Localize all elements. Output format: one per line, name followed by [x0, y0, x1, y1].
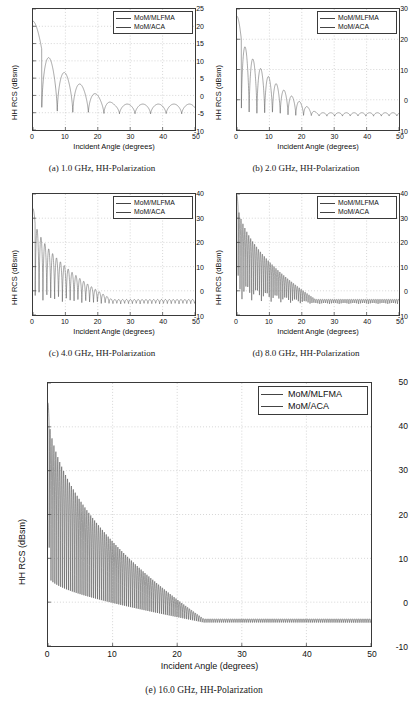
- ytick: 0: [379, 288, 408, 295]
- panel-e-caption: (e) 16.0 GHz, HH-Polarization: [0, 685, 408, 695]
- xtick: 0: [226, 133, 246, 140]
- legend-entry: MoM/ACA: [261, 401, 364, 412]
- legend-line-icon: [320, 27, 335, 28]
- panel-a: 25 20 15 10 5 0 -5 -10 0 10 20 30 40 50 …: [0, 0, 204, 185]
- xtick: 40: [357, 133, 377, 140]
- panel-b-xlabel: Incident Angle (degrees): [236, 142, 400, 151]
- xtick: 50: [186, 133, 206, 140]
- ytick: 15: [175, 40, 204, 47]
- legend-entry: MoM/MLFMA: [320, 14, 393, 22]
- xtick: 0: [22, 318, 42, 325]
- panel-e-xlabel: Incident Angle (degrees): [47, 661, 372, 671]
- panel-b-legend: MoM/MLFMA MoM/ACA: [317, 11, 397, 34]
- xtick: 10: [100, 650, 124, 659]
- panel-a-ylabel: HH RCS (dBsm): [10, 65, 19, 120]
- xtick: 10: [55, 133, 75, 140]
- xtick: 50: [390, 133, 410, 140]
- xtick: 30: [120, 133, 140, 140]
- panel-e-legend: MoM/MLFMA MoM/ACA: [258, 386, 368, 415]
- xtick: 50: [186, 318, 206, 325]
- ytick: 10: [175, 263, 204, 270]
- panel-c: 40 30 20 10 0 -10 0 10 20 30 40 50 Incid…: [0, 185, 204, 370]
- panel-c-caption: (c) 4.0 GHz, HH-Polarization: [0, 348, 204, 358]
- legend-entry: MoM/ACA: [320, 23, 393, 31]
- ytick: 10: [175, 57, 204, 64]
- xtick: 0: [35, 650, 59, 659]
- legend-line-icon: [116, 27, 131, 28]
- legend-line-icon: [261, 394, 283, 395]
- legend-label: MoM/ACA: [338, 24, 369, 31]
- panel-b-caption: (b) 2.0 GHz, HH-Polarization: [204, 163, 408, 173]
- xtick: 20: [165, 650, 189, 659]
- xtick: 20: [88, 133, 108, 140]
- legend-label: MoM/ACA: [134, 209, 165, 216]
- xtick: 40: [153, 133, 173, 140]
- ytick: 20: [379, 239, 408, 246]
- xtick: 0: [226, 318, 246, 325]
- panel-e-ylabel: HH RCS (dBsm): [17, 519, 27, 585]
- legend-label: MoM/MLFMA: [338, 200, 379, 207]
- legend-line-icon: [320, 18, 335, 19]
- panel-a-caption: (a) 1.0 GHz, HH-Polarization: [0, 163, 204, 173]
- ytick: 10: [379, 66, 408, 73]
- legend-label: MoM/ACA: [288, 402, 329, 411]
- xtick: 40: [295, 650, 319, 659]
- legend-entry: MoM/MLFMA: [116, 199, 189, 207]
- legend-label: MoM/MLFMA: [134, 15, 175, 22]
- legend-line-icon: [116, 18, 131, 19]
- legend-label: MoM/MLFMA: [288, 390, 342, 399]
- legend-label: MoM/ACA: [134, 24, 165, 31]
- panel-b: 30 20 10 0 -10 0 10 20 30 40 50 Incident…: [204, 0, 408, 185]
- legend-line-icon: [320, 203, 335, 204]
- panel-e: 50 40 30 20 10 0 -10 0 10 20 30 40 50 In…: [0, 370, 408, 717]
- legend-line-icon: [116, 212, 131, 213]
- xtick: 50: [360, 650, 384, 659]
- panel-c-xlabel: Incident Angle (degrees): [32, 327, 196, 336]
- panel-d-xlabel: Incident Angle (degrees): [236, 327, 400, 336]
- legend-line-icon: [261, 406, 283, 407]
- panel-d-ylabel: HH RCS (dBsm): [214, 250, 223, 305]
- xtick: 10: [55, 318, 75, 325]
- xtick: 40: [153, 318, 173, 325]
- panel-c-legend: MoM/MLFMA MoM/ACA: [113, 196, 193, 219]
- panel-a-xlabel: Incident Angle (degrees): [32, 142, 196, 151]
- xtick: 20: [292, 318, 312, 325]
- xtick: 40: [357, 318, 377, 325]
- legend-entry: MoM/MLFMA: [261, 389, 364, 400]
- ytick: 20: [365, 510, 408, 519]
- legend-line-icon: [320, 212, 335, 213]
- legend-line-icon: [116, 203, 131, 204]
- xtick: 10: [259, 133, 279, 140]
- panel-d-caption: (d) 8.0 GHz, HH-Polarization: [204, 348, 408, 358]
- legend-entry: MoM/ACA: [320, 208, 393, 216]
- xtick: 20: [292, 133, 312, 140]
- ytick: 20: [175, 239, 204, 246]
- xtick: 30: [230, 650, 254, 659]
- xtick: 30: [324, 133, 344, 140]
- ytick: 50: [365, 378, 408, 387]
- xtick: 50: [390, 318, 410, 325]
- legend-label: MoM/MLFMA: [338, 15, 379, 22]
- xtick: 0: [22, 133, 42, 140]
- ytick: 10: [365, 554, 408, 563]
- ytick: 0: [175, 288, 204, 295]
- panel-a-legend: MoM/MLFMA MoM/ACA: [113, 11, 193, 34]
- panel-e-plot-area: [47, 382, 372, 647]
- legend-label: MoM/ACA: [338, 209, 369, 216]
- legend-entry: MoM/MLFMA: [116, 14, 189, 22]
- ytick: 5: [175, 75, 204, 82]
- ytick: 0: [175, 92, 204, 99]
- xtick: 20: [88, 318, 108, 325]
- panel-e-curve: [48, 383, 371, 646]
- ytick: 30: [365, 466, 408, 475]
- ytick: 20: [379, 35, 408, 42]
- panel-d: 40 30 20 10 0 -10 0 10 20 30 40 50 Incid…: [204, 185, 408, 370]
- legend-label: MoM/MLFMA: [134, 200, 175, 207]
- xtick: 30: [324, 318, 344, 325]
- ytick: 0: [379, 97, 408, 104]
- ytick: -5: [175, 110, 204, 117]
- panel-c-ylabel: HH RCS (dBsm): [10, 250, 19, 305]
- legend-entry: MoM/ACA: [116, 23, 189, 31]
- ytick: 0: [365, 599, 408, 608]
